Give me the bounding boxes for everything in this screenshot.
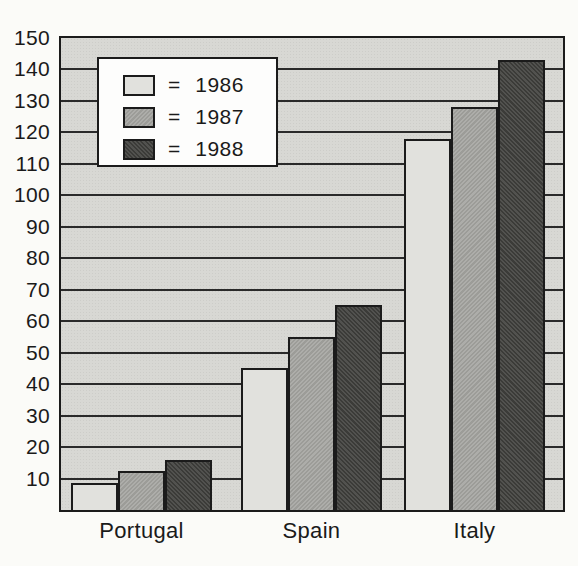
y-tick-label-140: 140 bbox=[0, 55, 50, 83]
bar-spain-1988 bbox=[335, 305, 382, 510]
bar-spain-1986 bbox=[241, 368, 288, 510]
bar-italy-1988 bbox=[498, 60, 545, 510]
legend-equals-sign: = bbox=[168, 137, 180, 161]
plot-area: =1986=1987=1988 bbox=[59, 36, 565, 512]
x-category-label-portugal: Portugal bbox=[99, 517, 183, 545]
y-tick-label-90: 90 bbox=[0, 213, 50, 241]
legend: =1986=1987=1988 bbox=[97, 57, 278, 167]
y-tick-label-120: 120 bbox=[0, 118, 50, 146]
y-tick-label-10: 10 bbox=[0, 465, 50, 493]
legend-row-1986: =1986 bbox=[123, 69, 276, 101]
bar-portugal-1988 bbox=[165, 460, 212, 510]
bar-portugal-1986 bbox=[71, 483, 118, 510]
bar-spain-1987 bbox=[288, 337, 335, 510]
legend-equals-sign: = bbox=[168, 73, 180, 97]
y-tick-label-40: 40 bbox=[0, 370, 50, 398]
legend-label-1987: 1987 bbox=[195, 105, 244, 129]
legend-row-1988: =1988 bbox=[123, 133, 276, 165]
bar-italy-1987 bbox=[451, 107, 498, 510]
x-category-label-italy: Italy bbox=[454, 517, 496, 545]
legend-swatch-1987 bbox=[123, 107, 155, 128]
y-tick-label-60: 60 bbox=[0, 307, 50, 335]
x-category-label-spain: Spain bbox=[283, 517, 341, 545]
y-tick-label-70: 70 bbox=[0, 276, 50, 304]
bar-chart: =1986=1987=1988 102030405060708090100110… bbox=[0, 0, 578, 566]
y-tick-label-20: 20 bbox=[0, 433, 50, 461]
bar-italy-1986 bbox=[404, 139, 451, 510]
legend-equals-sign: = bbox=[168, 105, 180, 129]
y-tick-label-30: 30 bbox=[0, 402, 50, 430]
legend-row-1987: =1987 bbox=[123, 101, 276, 133]
y-tick-label-80: 80 bbox=[0, 244, 50, 272]
y-tick-label-150: 150 bbox=[0, 24, 50, 52]
legend-swatch-1986 bbox=[123, 75, 155, 96]
legend-label-1986: 1986 bbox=[195, 73, 244, 97]
y-tick-label-110: 110 bbox=[0, 150, 50, 178]
bar-portugal-1987 bbox=[118, 471, 165, 510]
legend-label-1988: 1988 bbox=[195, 137, 244, 161]
legend-swatch-1988 bbox=[123, 139, 155, 160]
y-tick-label-130: 130 bbox=[0, 87, 50, 115]
y-tick-label-50: 50 bbox=[0, 339, 50, 367]
y-tick-label-100: 100 bbox=[0, 181, 50, 209]
